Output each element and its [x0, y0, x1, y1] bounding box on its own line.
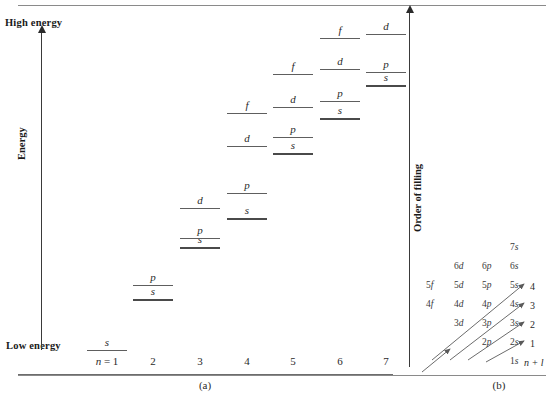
orbital-level-symbol: s [320, 104, 360, 116]
orbital-level-symbol: d [273, 93, 313, 105]
madelung-orbital-4p: 4p [482, 299, 492, 309]
orbital-level-bar [227, 218, 267, 220]
orbital-level-symbol: p [320, 87, 360, 99]
n-tick-4: 4 [224, 355, 270, 367]
caption-a: (a) [185, 379, 225, 391]
orbital-level-bar [273, 153, 313, 155]
orbital-level-bar [87, 350, 127, 351]
madelung-orbital-6s: 6s [510, 261, 518, 271]
orbital-level-symbol: f [227, 99, 267, 111]
n-tick-1: n = 1 [84, 355, 130, 367]
orbital-level-symbol: p [366, 58, 406, 70]
orbital-level-symbol: p [133, 271, 173, 283]
orbital-level-symbol: s [133, 285, 173, 297]
low-energy-label: Low energy [6, 340, 61, 351]
orbital-level-bar [180, 238, 220, 239]
orbital-level-bar [180, 247, 220, 249]
madelung-orbital-5p: 5p [482, 280, 492, 290]
madelung-orbital-5d: 5d [454, 280, 464, 290]
orbital-level-bar [366, 85, 406, 87]
figure-root: High energy Low energy Energy Order of f… [0, 0, 553, 399]
filling-order-arrow-5 [422, 349, 450, 372]
orbital-level-symbol: s [273, 139, 313, 151]
orbital-level-bar [180, 208, 220, 209]
orbital-level-bar [320, 101, 360, 102]
order-of-filling-axis-title: Order of filling [412, 164, 423, 232]
panel-b-madelung-diagram: 7s6d6p6s5f5d5p5s4f4d4p4s3d3p3s2p2s1s 432… [420, 225, 553, 375]
energy-axis-arrow [41, 32, 42, 350]
madelung-orbital-5s: 5s [510, 280, 518, 290]
madelung-orbital-4f: 4f [426, 299, 433, 309]
madelung-orbital-1s: 1s [510, 356, 518, 366]
orbital-level-bar [227, 193, 267, 194]
n-tick-3: 3 [177, 355, 223, 367]
filling-order-arrow-2 [450, 303, 524, 360]
orbital-level-symbol: s [227, 204, 267, 216]
madelung-orbital-3d: 3d [454, 318, 464, 328]
orbital-level-symbol: p [273, 123, 313, 135]
filling-order-number-1: 1 [530, 338, 535, 349]
madelung-orbital-2s: 2s [510, 337, 518, 347]
orbital-level-bar [366, 72, 406, 73]
filling-order-number-2: 2 [530, 319, 535, 330]
orbital-level-symbol: d [366, 20, 406, 32]
orbital-level-bar [273, 107, 313, 108]
orbital-level-bar [133, 285, 173, 286]
orbital-level-symbol: d [320, 55, 360, 67]
madelung-orbital-4d: 4d [454, 299, 464, 309]
orbital-level-symbol: p [227, 179, 267, 191]
n-tick-6: 6 [317, 355, 363, 367]
orbital-level-bar [273, 137, 313, 138]
orbital-level-bar [320, 38, 360, 39]
filling-order-number-4: 4 [530, 281, 535, 292]
orbital-level-bar [320, 69, 360, 70]
arrow-head-icon [38, 25, 46, 33]
orbital-level-symbol: s [87, 336, 127, 348]
filling-order-number-3: 3 [530, 300, 535, 311]
orbital-level-symbol: p [180, 224, 220, 236]
orbital-level-symbol: f [320, 24, 360, 36]
madelung-orbital-6d: 6d [454, 261, 464, 271]
madelung-orbital-3s: 3s [510, 318, 518, 328]
n-plus-l-label: n + l [524, 357, 544, 368]
n-tick-5: 5 [270, 355, 316, 367]
orbital-level-symbol: d [180, 194, 220, 206]
n-tick-7: 7 [363, 355, 409, 367]
madelung-orbital-6p: 6p [482, 261, 492, 271]
high-energy-label: High energy [5, 17, 62, 28]
orbital-level-bar [273, 74, 313, 75]
orbital-level-bar [133, 299, 173, 301]
orbital-level-symbol: d [227, 132, 267, 144]
orbital-level-symbol: f [273, 60, 313, 72]
madelung-orbital-5f: 5f [426, 280, 433, 290]
madelung-orbital-3p: 3p [482, 318, 492, 328]
arrow-head-icon [406, 5, 414, 13]
n-tick-2: 2 [130, 355, 176, 367]
order-of-filling-axis-arrow [409, 12, 410, 367]
madelung-orbital-2p: 2p [482, 337, 492, 347]
orbital-level-bar [366, 34, 406, 35]
orbital-level-bar [227, 146, 267, 147]
madelung-orbital-4s: 4s [510, 299, 518, 309]
madelung-orbital-7s: 7s [510, 242, 518, 252]
energy-axis-title: Energy [16, 127, 27, 160]
caption-b: (b) [479, 379, 519, 391]
panel-a-energy-diagram: High energy Low energy Energy Order of f… [0, 0, 420, 399]
figure-bottom-rule [18, 375, 546, 376]
orbital-level-bar [227, 113, 267, 114]
orbital-level-bar [320, 118, 360, 120]
